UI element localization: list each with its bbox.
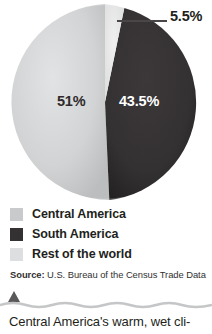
caption-text: Central America's warm, wet cli-	[9, 314, 190, 329]
chart-legend: Central America South America Rest of th…	[10, 204, 206, 264]
legend-item-south-america: South America	[10, 224, 206, 244]
pie-label-central-america: 5.5%	[170, 8, 202, 24]
legend-swatch-rest-of-the-world	[10, 248, 23, 261]
legend-item-central-america: Central America	[10, 204, 206, 224]
legend-swatch-south-america	[10, 228, 23, 241]
legend-label-rest-of-the-world: Rest of the world	[32, 247, 132, 261]
pie-chart-graphic	[8, 4, 202, 200]
legend-item-rest-of-the-world: Rest of the world	[10, 244, 206, 264]
source-text: U.S. Bureau of the Census Trade Data	[45, 269, 206, 280]
pie-label-south-america: 43.5%	[119, 93, 159, 109]
legend-swatch-central-america	[10, 208, 23, 221]
pie-chart-figure: 5.5% 51% 43.5%	[0, 0, 212, 200]
callout-leader-line	[117, 20, 167, 22]
chart-source: Source: U.S. Bureau of the Census Trade …	[10, 269, 206, 280]
pie-label-rest-of-the-world: 51%	[57, 93, 85, 109]
source-label: Source:	[10, 269, 45, 280]
legend-label-central-america: Central America	[32, 207, 126, 221]
legend-label-south-america: South America	[32, 227, 118, 241]
wave-divider	[0, 301, 212, 309]
